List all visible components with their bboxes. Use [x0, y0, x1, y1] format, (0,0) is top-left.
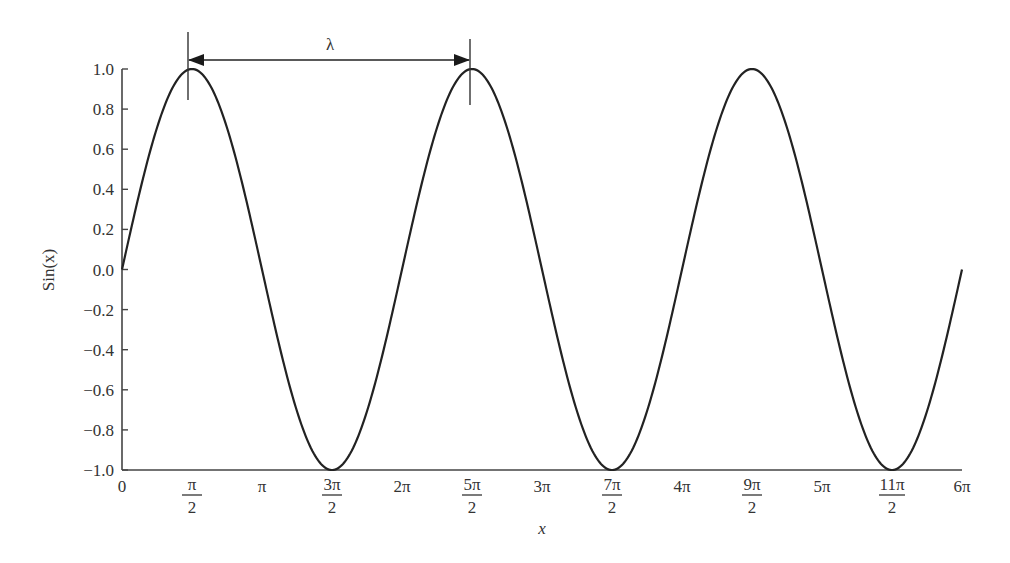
fraction-numerator: 11π	[880, 475, 905, 494]
y-tick-label: −1.0	[83, 461, 114, 480]
sine-curve	[122, 69, 962, 470]
fraction-denominator: 2	[188, 498, 197, 517]
fraction-denominator: 2	[748, 498, 757, 517]
x-tick-fraction-label: π2	[182, 475, 202, 517]
fraction-denominator: 2	[608, 498, 617, 517]
fraction-denominator: 2	[468, 498, 477, 517]
y-tick-label: −0.6	[83, 381, 114, 400]
y-tick-label: −0.2	[83, 301, 114, 320]
wavelength-label: λ	[326, 35, 335, 54]
fraction-numerator: π	[188, 475, 197, 494]
x-tick-fraction-label: 9π2	[742, 475, 762, 517]
x-tick-fraction-label: 5π2	[462, 475, 482, 517]
x-tick-label: 0	[118, 477, 127, 496]
x-tick-label: π	[258, 477, 267, 496]
y-tick-label: 1.0	[93, 60, 114, 79]
fraction-denominator: 2	[888, 498, 897, 517]
x-tick-label: 3π	[533, 477, 551, 496]
fraction-numerator: 7π	[603, 475, 621, 494]
x-axis-title: x	[537, 519, 546, 538]
wavelength-annotation: λ	[188, 32, 470, 105]
fraction-numerator: 3π	[323, 475, 341, 494]
y-axis-title: Sin(x)	[39, 249, 58, 292]
sine-wave-chart: 1.00.80.60.40.20.0−0.2−0.4−0.6−0.8−1.0 0…	[0, 0, 1010, 563]
x-tick-label: 4π	[673, 477, 691, 496]
y-tick-label: 0.2	[93, 220, 114, 239]
x-tick-fraction-label: 11π2	[879, 475, 905, 517]
y-tick-label: 0.4	[93, 180, 115, 199]
y-tick-label: 0.8	[93, 100, 114, 119]
x-tick-label: 6π	[953, 477, 971, 496]
x-tick-fraction-label: 3π2	[322, 475, 342, 517]
y-tick-label: 0.0	[93, 261, 114, 280]
fraction-denominator: 2	[328, 498, 337, 517]
fraction-numerator: 9π	[743, 475, 761, 494]
x-axis-ticks: 0π2π3π22π5π23π7π24π9π25π11π26π	[118, 475, 971, 517]
x-tick-fraction-label: 7π2	[602, 475, 622, 517]
y-tick-label: 0.6	[93, 140, 114, 159]
fraction-numerator: 5π	[463, 475, 481, 494]
y-tick-label: −0.8	[83, 421, 114, 440]
x-tick-label: 5π	[813, 477, 831, 496]
y-tick-label: −0.4	[83, 341, 114, 360]
x-tick-label: 2π	[393, 477, 411, 496]
